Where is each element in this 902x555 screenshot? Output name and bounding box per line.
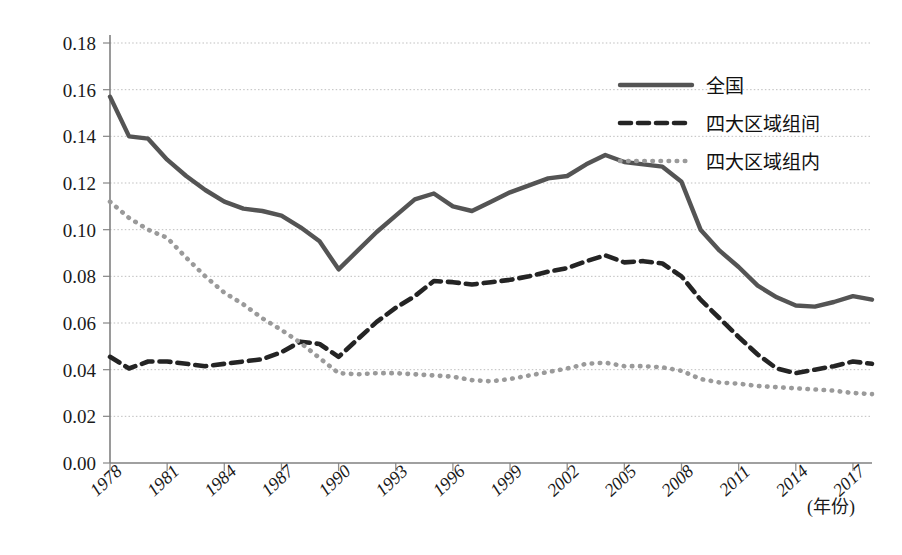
gridlines-group (110, 43, 872, 416)
legend-label: 全国 (706, 76, 744, 97)
line-chart: 0.000.020.040.060.080.100.120.140.160.18… (0, 0, 902, 555)
x-tick-label: 1981 (143, 461, 183, 500)
x-axis-unit-label: (年份) (807, 497, 855, 518)
x-tick-label: 2005 (600, 461, 640, 500)
y-tick-label: 0.04 (63, 360, 97, 381)
x-tick-label: 1987 (257, 460, 298, 500)
y-tick-label: 0.06 (63, 313, 96, 334)
x-tick-label: 1990 (315, 461, 355, 500)
y-tick-label: 0.02 (63, 406, 96, 427)
x-tick-label: 2017 (829, 460, 870, 500)
series-line-dashed (110, 255, 872, 373)
legend-label: 四大区域组内 (706, 152, 820, 173)
axis-ticks-group (103, 43, 853, 471)
y-tick-label: 0.18 (63, 33, 96, 54)
data-series-group (110, 97, 872, 395)
x-tick-label: 2011 (715, 461, 754, 499)
x-tick-label: 2014 (772, 461, 812, 500)
y-tick-label: 0.08 (63, 266, 96, 287)
y-tick-label: 0.16 (63, 80, 96, 101)
x-tick-label: 2008 (657, 461, 697, 500)
x-tick-label: 1999 (486, 461, 526, 500)
y-tick-label: 0.12 (63, 173, 96, 194)
x-axis-tick-labels: 1978198119841987199019931996199920022005… (86, 460, 870, 500)
axes-group (110, 35, 872, 463)
x-tick-label: 1993 (372, 461, 412, 500)
y-tick-label: 0.00 (63, 453, 96, 474)
x-tick-label: 1996 (429, 461, 469, 500)
chart-container: 0.000.020.040.060.080.100.120.140.160.18… (0, 0, 902, 555)
x-tick-label: 1984 (200, 461, 240, 500)
legend-label: 四大区域组间 (706, 114, 820, 135)
chart-legend: 全国四大区域组间四大区域组内 (620, 76, 820, 173)
x-tick-label: 2002 (543, 461, 583, 500)
y-axis-tick-labels: 0.000.020.040.060.080.100.120.140.160.18 (63, 33, 97, 474)
y-tick-label: 0.10 (63, 220, 96, 241)
y-tick-label: 0.14 (63, 126, 97, 147)
